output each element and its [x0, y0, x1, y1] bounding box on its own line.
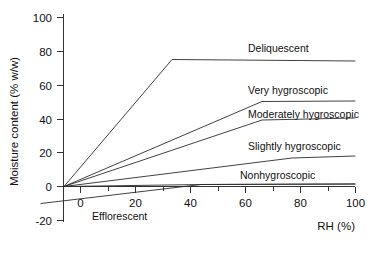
series-label-deliquescent: Deliquescent	[248, 42, 309, 54]
x-tick-label-60: 60	[239, 197, 252, 209]
y-tick-label-0: 0	[46, 181, 52, 193]
y-tick-label-100: 100	[33, 12, 52, 24]
x-tick-label-20: 20	[129, 197, 142, 209]
series-label-slightly-hygroscopic: Slightly hygroscopic	[248, 140, 341, 152]
y-tick-label-80: 80	[39, 46, 52, 58]
y-axis-title: Moisture content (% w/w)	[8, 57, 20, 186]
x-axis-title: RH (%)	[317, 220, 355, 232]
series-label-moderately-hygroscopic: Moderately hygroscopic	[248, 108, 359, 120]
y-tick-label-60: 60	[39, 80, 52, 92]
moisture-sorption-chart: 100 80 60 40 20 0 -20 0 20 40 60 80 1	[0, 0, 382, 256]
x-tick-label-80: 80	[294, 197, 307, 209]
y-tick-label-minus-20: -20	[35, 215, 52, 227]
x-tick-label-100: 100	[346, 197, 365, 209]
chart-figure: 100 80 60 40 20 0 -20 0 20 40 60 80 1	[0, 0, 382, 256]
y-axis-ticks	[57, 18, 64, 221]
y-tick-label-40: 40	[39, 114, 52, 126]
x-axis-minor-ticks	[108, 187, 328, 191]
series-label-very-hygroscopic: Very hygroscopic	[248, 84, 328, 96]
series-label-nonhygroscopic: Nonhygroscopic	[240, 169, 315, 181]
series-label-efflorescent: Efflorescent	[92, 210, 147, 222]
x-tick-label-40: 40	[184, 197, 197, 209]
y-tick-label-20: 20	[39, 147, 52, 159]
